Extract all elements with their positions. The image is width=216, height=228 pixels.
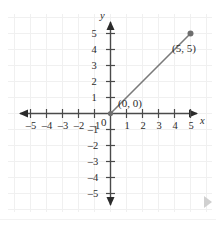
y-tick-label--5: –5 [84, 189, 102, 200]
y-tick-label-2: 2 [86, 77, 102, 88]
origin-point-annotation: (0, 0) [118, 98, 142, 109]
endpoint-annotation: (5, 5) [172, 43, 196, 54]
bottom-divider [0, 219, 216, 220]
y-axis-label: y [100, 11, 105, 22]
y-tick-label-4: 4 [86, 45, 102, 56]
y-tick-label--2: –2 [84, 141, 102, 152]
y-tick-label--3: –3 [84, 157, 102, 168]
x-tick-label-5: 5 [181, 121, 201, 132]
y-tick-label-5: 5 [86, 29, 102, 40]
y-tick-label-3: 3 [86, 61, 102, 72]
y-tick-label--4: –4 [84, 173, 102, 184]
graph-canvas [0, 0, 216, 228]
y-tick-label--1: –1 [84, 125, 102, 136]
play-triangle-icon[interactable] [204, 196, 212, 208]
coordinate-plane-figure: y x 0 –5 –4 –3 –2 –1 1 2 3 4 5 5 4 3 2 1… [0, 0, 216, 228]
y-tick-label-1: 1 [86, 93, 102, 104]
